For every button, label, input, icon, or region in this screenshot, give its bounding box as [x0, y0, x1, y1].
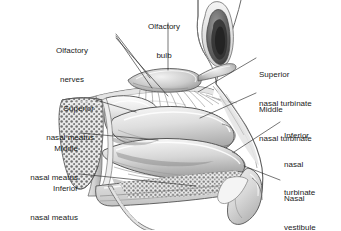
label-olfactory-nerves: Olfactory nerves: [40, 27, 104, 94]
label-middle-nasal-meatus-line1: Middle: [0, 144, 78, 154]
label-olfactory-nerves-line2: nerves: [40, 75, 104, 85]
label-olfactory-bulb-line1: Olfactory: [136, 22, 192, 32]
label-inferior-nasal-meatus: Inferior nasal meatus: [0, 165, 78, 230]
label-inferior-nasal-meatus-line1: Inferior: [0, 184, 78, 194]
label-nasal-vestibule-line2: vestibule: [284, 223, 340, 231]
label-nasal-vestibule: Nasal vestibule: [284, 175, 340, 230]
label-superior-nasal-meatus-line1: Superior: [14, 104, 94, 114]
label-inferior-nasal-turbinate-line2: nasal: [284, 160, 340, 170]
label-olfactory-bulb: Olfactory bulb: [136, 3, 192, 70]
label-nasal-vestibule-line1: Nasal: [284, 194, 340, 204]
label-inferior-nasal-turbinate-line1: Inferior: [284, 131, 340, 141]
label-olfactory-nerves-line1: Olfactory: [40, 46, 104, 56]
label-olfactory-bulb-line2: bulb: [136, 51, 192, 61]
label-inferior-nasal-meatus-line2: nasal meatus: [0, 213, 78, 223]
label-superior-nasal-turbinate-line1: Superior: [259, 70, 339, 80]
